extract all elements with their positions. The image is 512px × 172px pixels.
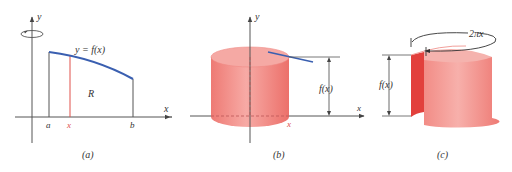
tick-a: a bbox=[46, 120, 51, 130]
shell-method-figure: y x y = f(x) R a x b (a) y bbox=[0, 0, 512, 172]
circumference-label: 2πx bbox=[469, 28, 484, 39]
curve-label: y = f(x) bbox=[74, 44, 106, 56]
region-label: R bbox=[87, 88, 94, 99]
shell-body bbox=[424, 52, 500, 128]
caption-b: (b) bbox=[273, 149, 285, 161]
x-axis-label: x bbox=[163, 103, 169, 114]
curve-f bbox=[49, 52, 133, 79]
panel-a: y x y = f(x) R a x b (a) bbox=[15, 11, 170, 161]
caption-c: (c) bbox=[437, 149, 449, 161]
x-axis-label: x bbox=[356, 103, 361, 113]
height-label: f(x) bbox=[379, 79, 394, 91]
height-label: f(x) bbox=[319, 83, 334, 95]
shell-inner bbox=[411, 52, 424, 117]
y-axis-label: y bbox=[36, 11, 42, 22]
tick-b: b bbox=[130, 120, 135, 130]
stray-mark bbox=[170, 116, 172, 118]
y-axis-label: y bbox=[254, 11, 260, 22]
tick-x: x bbox=[66, 120, 71, 130]
x-axis-label: x bbox=[286, 119, 291, 129]
caption-a: (a) bbox=[82, 149, 94, 161]
panel-b: y x f(x) (b) bbox=[190, 11, 340, 161]
panel-c: x f(x) 2πx (c) bbox=[340, 28, 500, 161]
